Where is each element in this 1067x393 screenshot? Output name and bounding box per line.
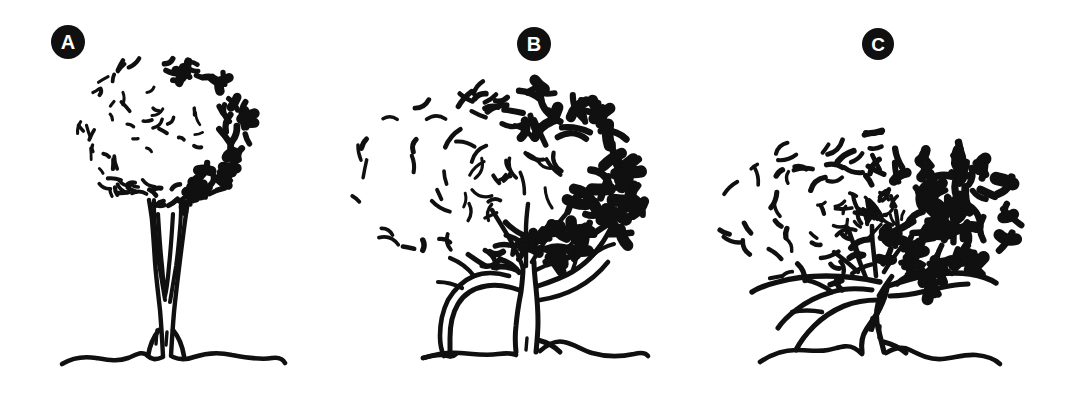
panel-a-label: A (61, 31, 75, 53)
panel-b-label: B (527, 33, 541, 55)
tree-form-illustration: A (0, 0, 1067, 393)
panel-c-label-badge: C (862, 28, 894, 60)
panel-c-label: C (871, 34, 885, 55)
panel-a-label-badge: A (51, 25, 85, 59)
figure-root: Three tree growth forms (0, 0, 1067, 393)
panel-b-label-badge: B (517, 27, 551, 61)
